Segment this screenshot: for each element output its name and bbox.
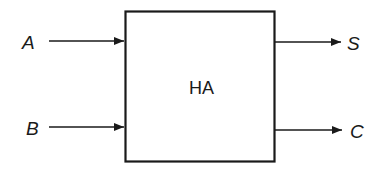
block-label: HA (189, 79, 214, 97)
input-a-label: A (22, 33, 35, 52)
output-s-label: S (347, 34, 360, 53)
input-b-label: B (26, 119, 39, 138)
output-c-label: C (350, 122, 364, 141)
